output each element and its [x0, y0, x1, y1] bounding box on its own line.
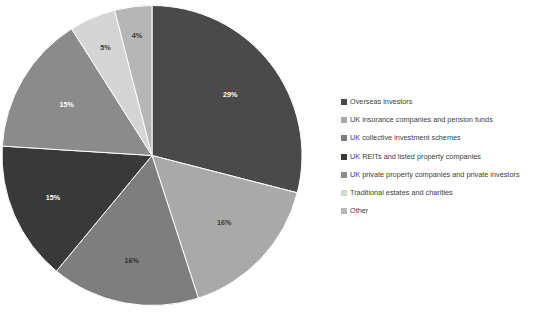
pie-svg: 29%16%16%15%15%5%4%	[0, 0, 320, 312]
pie-slice-value-label: 15%	[60, 100, 75, 109]
legend-swatch-icon	[341, 99, 347, 105]
legend-item-label: Overseas investors	[350, 93, 412, 111]
legend-item[interactable]: UK insurance companies and pension funds	[341, 111, 533, 129]
pie-slice-value-label: 16%	[125, 256, 140, 265]
legend-item-label: Traditional estates and charities	[350, 184, 453, 202]
legend-swatch-icon	[341, 208, 347, 214]
legend-swatch-icon	[341, 154, 347, 160]
legend-swatch-icon	[341, 190, 347, 196]
legend-item-label: Other	[350, 202, 368, 220]
legend-item-label: UK private property companies and privat…	[350, 166, 520, 184]
legend-item[interactable]: UK REITs and listed property companies	[341, 148, 533, 166]
pie-plot-area: 29%16%16%15%15%5%4%	[0, 0, 320, 312]
legend-item[interactable]: UK collective investment schemes	[341, 129, 533, 147]
chart-legend: Overseas investorsUK insurance companies…	[341, 93, 533, 220]
legend-swatch-icon	[341, 172, 347, 178]
pie-chart-figure: 29%16%16%15%15%5%4% Overseas investorsUK…	[0, 0, 533, 312]
pie-slice-value-label: 4%	[132, 31, 143, 40]
legend-item-label: UK collective investment schemes	[350, 129, 461, 147]
pie-slice-value-label: 15%	[46, 193, 61, 202]
legend-item[interactable]: UK private property companies and privat…	[341, 166, 533, 184]
legend-item[interactable]: Overseas investors	[341, 93, 533, 111]
legend-swatch-icon	[341, 135, 347, 141]
legend-item[interactable]: Traditional estates and charities	[341, 184, 533, 202]
legend-item[interactable]: Other	[341, 202, 533, 220]
pie-slice-value-label: 16%	[217, 218, 232, 227]
pie-slice-value-label: 29%	[223, 90, 238, 99]
pie-slice-value-label: 5%	[100, 43, 111, 52]
legend-item-label: UK insurance companies and pension funds	[350, 111, 493, 129]
legend-swatch-icon	[341, 117, 347, 123]
legend-item-label: UK REITs and listed property companies	[350, 148, 481, 166]
pie-slice-group	[2, 6, 302, 306]
